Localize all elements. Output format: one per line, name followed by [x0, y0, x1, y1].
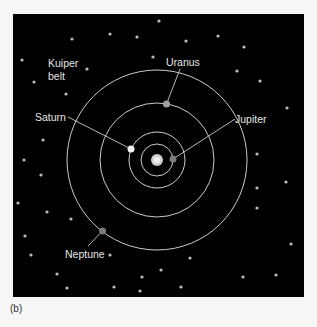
kuiper-object-dot	[112, 285, 115, 288]
solar-system-diagram: JupiterSaturnUranusNeptune Kuiper belt	[0, 0, 317, 327]
kuiper-object-dot	[55, 272, 58, 275]
jupiter-planet-icon	[170, 156, 177, 163]
kuiper-object-dot	[235, 69, 238, 72]
uranus-label: Uranus	[166, 56, 200, 68]
kuiper-object-dot	[69, 217, 72, 220]
kuiper-object-dot	[16, 201, 19, 204]
saturn-label: Saturn	[35, 111, 66, 123]
figure-caption: (b)	[10, 303, 22, 314]
kuiper-object-dot	[70, 37, 73, 40]
kuiper-object-dot	[188, 256, 191, 259]
kuiper-object-dot	[64, 92, 67, 95]
neptune-planet-icon	[99, 228, 106, 235]
sun-icon	[151, 154, 163, 166]
kuiper-object-dot	[216, 34, 219, 37]
kuiper-object-dot	[65, 286, 68, 289]
kuiper-object-dot	[45, 210, 48, 213]
jupiter-label: Jupiter	[235, 113, 267, 125]
kuiper-object-dot	[23, 234, 26, 237]
kuiper-object-dot	[285, 106, 288, 109]
kuiper-object-dot	[255, 206, 258, 209]
kuiper-object-dot	[29, 253, 32, 256]
kuiper-object-dot	[284, 180, 287, 183]
kuiper-object-dot	[140, 275, 143, 278]
uranus-planet-icon	[163, 101, 170, 108]
kuiper-object-dot	[108, 32, 111, 35]
kuiper-object-dot	[20, 58, 23, 61]
kuiper-object-dot	[138, 289, 141, 292]
kuiper-object-dot	[184, 39, 187, 42]
kuiper-object-dot	[242, 45, 245, 48]
kuiper-object-dot	[157, 19, 160, 22]
neptune-label: Neptune	[65, 248, 105, 260]
kuiper-object-dot	[255, 152, 258, 155]
kuiper-object-dot	[32, 80, 35, 83]
kuiper-belt-label-line1: Kuiper	[48, 57, 79, 69]
kuiper-object-dot	[135, 35, 138, 38]
kuiper-object-dot	[85, 67, 88, 70]
kuiper-object-dot	[39, 173, 42, 176]
kuiper-object-dot	[289, 242, 292, 245]
saturn-planet-icon	[128, 146, 135, 153]
kuiper-object-dot	[258, 79, 261, 82]
kuiper-object-dot	[22, 158, 25, 161]
kuiper-belt-label-line2: belt	[48, 70, 65, 82]
kuiper-object-dot	[108, 253, 111, 256]
kuiper-object-dot	[41, 138, 44, 141]
kuiper-object-dot	[151, 55, 154, 58]
kuiper-object-dot	[241, 275, 244, 278]
kuiper-object-dot	[255, 186, 258, 189]
kuiper-object-dot	[274, 273, 277, 276]
kuiper-object-dot	[159, 268, 162, 271]
kuiper-object-dot	[179, 285, 182, 288]
